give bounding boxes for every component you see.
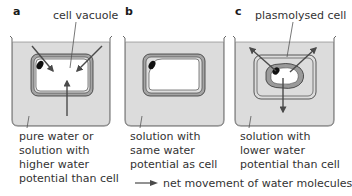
beaker-a [10,22,112,128]
beaker-c [233,22,336,128]
cell-a-turgid [31,54,93,96]
caption-b: solution with same water potential as ce… [130,130,217,172]
callout-cell-vacuole: cell vacuole [53,9,118,22]
caption-b-line-3: potential as cell [130,158,217,172]
caption-b-line-1: solution with [130,130,217,144]
caption-b-line-2: same water [130,144,217,158]
caption-a: pure water or solution with higher water… [19,130,119,186]
cell-c-plasmolysed [254,55,316,99]
caption-c-line-2: lower water [240,144,340,158]
caption-a-line-4: potential than cell [19,172,119,186]
panel-letter-c: c [235,5,242,18]
legend-label: net movement of water molecules [163,177,352,190]
caption-a-line-1: pure water or [19,130,119,144]
caption-a-line-2: solution with [19,144,119,158]
cell-b-normal [143,54,205,96]
caption-c-line-1: solution with [240,130,340,144]
beaker-b [123,36,226,128]
legend: net movement of water molecules [133,176,352,190]
panel-letter-a: a [13,5,20,18]
caption-c: solution with lower water potential than… [240,130,340,172]
callout-plasmolysed-cell: plasmolysed cell [255,9,346,22]
caption-a-line-3: higher water [19,158,119,172]
panel-letter-b: b [125,5,133,18]
caption-c-line-3: potential than cell [240,158,340,172]
